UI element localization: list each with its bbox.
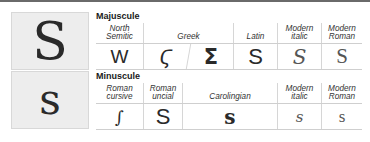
glyph-modern-roman: S	[322, 44, 362, 69]
glyph-roman-uncial: S	[144, 104, 183, 129]
header-carolingian: Carolingian	[183, 83, 278, 103]
majuscule-large-glyph: S	[32, 15, 68, 67]
majuscule-title: Majuscule	[96, 11, 140, 21]
glyph-modern-italic: S	[278, 44, 322, 69]
top-rule	[0, 0, 370, 2]
header-modern-roman: ModernRoman	[322, 23, 362, 43]
minuscule-header-row: Romancursive Romanuncial Carolingian Mod…	[96, 83, 362, 104]
header-roman-uncial: Romanuncial	[144, 83, 183, 103]
minuscule-glyph-row: ∫ S s s s	[96, 104, 362, 130]
majuscule-header-row: NorthSemitic Greek Latin Modernitalic Mo…	[96, 23, 362, 44]
glyph-roman-cursive: ∫	[96, 104, 144, 129]
glyph-modern-italic-min: s	[278, 104, 322, 129]
minuscule-title: Minuscule	[96, 71, 140, 81]
minuscule-large-glyph: s	[39, 79, 61, 121]
header-latin: Latin	[234, 23, 278, 43]
majuscule-panel: S	[11, 12, 89, 70]
glyph-carolingian: s	[183, 104, 278, 129]
minuscule-panel: s	[11, 71, 89, 129]
header-modern-italic-min: Modernitalic	[278, 83, 322, 103]
glyph-greek-archaic: Ϛ	[142, 44, 191, 69]
header-roman-cursive: Romancursive	[96, 83, 144, 103]
majuscule-glyph-row: W Ϛ Σ S S S	[96, 44, 362, 70]
header-modern-italic: Modernitalic	[278, 23, 322, 43]
header-north-semitic: NorthSemitic	[96, 23, 144, 43]
glyph-north-semitic: W	[96, 44, 144, 69]
glyph-greek-sigma: Σ	[189, 44, 234, 69]
header-modern-roman-min: ModernRoman	[322, 83, 362, 103]
glyph-latin: S	[234, 44, 278, 69]
glyph-modern-roman-min: s	[322, 104, 362, 129]
header-greek: Greek	[144, 23, 234, 43]
